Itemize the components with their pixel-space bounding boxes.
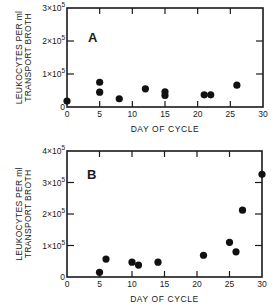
data-point: [239, 207, 246, 214]
data-point: [232, 248, 239, 255]
chart-panel-b: 05101520253001×1052×1053×1054×105DAY OF …: [0, 145, 278, 307]
y-axis-label-line2: TRANSPORT BROTH: [23, 13, 33, 102]
data-point: [258, 171, 265, 178]
x-tick-label: 20: [192, 279, 202, 289]
scatter-plot-a: 05101520253001×1052×1053×105DAY OF CYCLE…: [0, 0, 278, 145]
x-tick-label: 15: [160, 109, 170, 119]
y-tick-label: 0: [60, 272, 65, 282]
panel-label: B: [87, 167, 96, 182]
x-tick-label: 0: [65, 279, 70, 289]
chart-panel-a: 05101520253001×1052×1053×105DAY OF CYCLE…: [0, 0, 278, 145]
data-point: [135, 261, 142, 268]
data-point: [96, 89, 103, 96]
x-tick-label: 10: [127, 279, 137, 289]
x-tick-label: 30: [257, 279, 267, 289]
data-point: [207, 91, 214, 98]
y-tick-label: 2×105: [42, 34, 65, 46]
data-point: [116, 95, 123, 102]
scatter-plot-b: 05101520253001×1052×1053×1054×105DAY OF …: [0, 145, 278, 307]
data-point: [142, 85, 149, 92]
plot-area: [67, 151, 266, 277]
data-point: [128, 259, 135, 266]
data-point: [96, 269, 103, 276]
y-tick-label: 4×105: [42, 145, 65, 156]
x-axis-label: DAY OF CYCLE: [131, 124, 200, 134]
x-tick-label: 0: [65, 109, 70, 119]
y-axis-label-line2: TRANSPORT BROTH: [23, 170, 33, 259]
data-point: [226, 239, 233, 246]
x-tick-label: 10: [128, 109, 138, 119]
x-tick-label: 5: [97, 109, 102, 119]
x-tick-label: 30: [258, 109, 268, 119]
data-point: [154, 259, 161, 266]
x-tick-label: 20: [193, 109, 203, 119]
y-tick-label: 1×105: [42, 239, 65, 251]
data-point: [200, 252, 207, 259]
data-point: [102, 255, 109, 262]
x-tick-label: 25: [225, 279, 235, 289]
y-tick-label: 3×105: [42, 1, 65, 13]
y-tick-label: 0: [60, 102, 65, 112]
data-point: [201, 91, 208, 98]
data-point: [161, 92, 168, 99]
y-tick-label: 3×105: [42, 176, 65, 188]
y-tick-label: 1×105: [42, 67, 65, 79]
plot-area: [63, 8, 263, 107]
x-axis-label: DAY OF CYCLE: [130, 294, 199, 304]
x-tick-label: 25: [226, 109, 236, 119]
x-tick-label: 15: [160, 279, 170, 289]
panel-label: A: [88, 30, 98, 45]
data-point: [96, 79, 103, 86]
x-tick-label: 5: [97, 279, 102, 289]
data-point: [233, 82, 240, 89]
y-tick-label: 2×105: [42, 207, 65, 219]
